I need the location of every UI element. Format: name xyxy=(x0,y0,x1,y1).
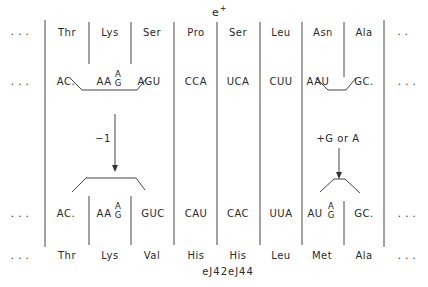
marker-superscript: + xyxy=(220,4,227,13)
bracket-bottom-left xyxy=(72,178,145,192)
bottom-aa-his-2: His xyxy=(229,250,246,262)
top-aa-thr: Thr xyxy=(58,27,76,39)
bottom-aa-met: Met xyxy=(312,250,332,262)
diagram-lines xyxy=(0,0,428,287)
bottom-aa-ala: Ala xyxy=(355,250,372,262)
bottom-codon-5: CAC xyxy=(227,208,249,220)
bottom-aa-val: Val xyxy=(144,250,160,262)
bottom-aa-his: His xyxy=(187,250,204,262)
arrow-left-head xyxy=(112,165,118,172)
bottom-aa-leu: Leu xyxy=(271,250,290,262)
bottom-codon-2-wobble: A G xyxy=(115,202,122,220)
wobble-bottom: G xyxy=(115,211,122,220)
bottom-codon-1: AC. xyxy=(57,208,75,220)
top-aa-ala: Ala xyxy=(355,27,372,39)
ellipsis-left-top-aa: . . . xyxy=(11,26,29,38)
top-codon-4: CCA xyxy=(185,76,207,88)
bottom-codon-4: CAU xyxy=(185,208,208,220)
top-codon-7: AAU xyxy=(307,76,330,88)
ellipsis-right-top-aa: . . xyxy=(397,26,408,38)
ellipsis-right-top-codon: . . . xyxy=(398,76,416,88)
figure-caption: eJ42eJ44 xyxy=(202,266,254,278)
e-plus-marker: e+ xyxy=(212,6,225,19)
bottom-aa-thr: Thr xyxy=(58,250,76,262)
bracket-bottom-right xyxy=(320,179,360,193)
top-codon-5: UCA xyxy=(227,76,250,88)
wobble-bottom: G xyxy=(328,211,335,220)
top-aa-ser-2: Ser xyxy=(229,27,247,39)
mutation-left-label: −1 xyxy=(95,133,111,145)
top-codon-3: AGU xyxy=(137,76,160,88)
bottom-codon-7-wobble: A G xyxy=(328,202,335,220)
ellipsis-left-bottom-aa: . . . xyxy=(11,250,29,262)
top-codon-8: GC. xyxy=(354,76,373,88)
arrow-right-head xyxy=(336,172,342,179)
top-codon-6: CUU xyxy=(269,76,292,88)
ellipsis-left-bottom-codon: . . . xyxy=(11,208,29,220)
wobble-bottom: G xyxy=(115,79,122,88)
bottom-codon-8: GC. xyxy=(354,208,373,220)
top-aa-ser: Ser xyxy=(143,27,161,39)
marker-label: e xyxy=(212,6,219,19)
bottom-codon-7-base: AU xyxy=(307,208,322,220)
top-codon-2-base: AA xyxy=(97,76,112,88)
top-aa-pro: Pro xyxy=(187,27,204,39)
bottom-codon-2-base: AA xyxy=(97,208,112,220)
top-codon-2-wobble: A G xyxy=(115,70,122,88)
mutation-right-label: +G or A xyxy=(316,133,359,145)
top-aa-asn: Asn xyxy=(313,27,333,39)
ellipsis-right-bottom-aa: . . . xyxy=(398,250,416,262)
ellipsis-left-top-codon: . . . xyxy=(11,76,29,88)
bottom-codon-3: GUC xyxy=(141,208,165,220)
ellipsis-right-bottom-codon: . . . xyxy=(398,208,416,220)
bottom-codon-6: UUA xyxy=(270,208,293,220)
top-aa-lys: Lys xyxy=(101,27,118,39)
top-codon-1: AC. xyxy=(57,76,75,88)
top-aa-leu: Leu xyxy=(271,27,290,39)
bottom-aa-lys: Lys xyxy=(101,250,118,262)
frameshift-diagram: e+ . . . Thr Lys Ser Pro Ser Leu Asn Ala… xyxy=(0,0,428,287)
